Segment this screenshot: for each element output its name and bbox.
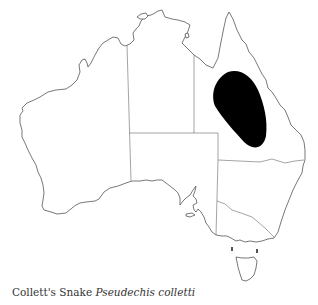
tasmania [236,257,257,281]
australia-distribution-map [0,0,318,305]
groote-eylandt [185,33,189,38]
kangaroo-island [186,213,195,217]
flinders-island [256,249,258,253]
king-island [231,247,233,251]
common-name: Collett's Snake [12,286,92,298]
map-caption: Collett's Snake Pseudechis colletti [12,286,195,298]
scientific-name: Pseudechis colletti [95,286,195,298]
melville-island [137,13,148,19]
